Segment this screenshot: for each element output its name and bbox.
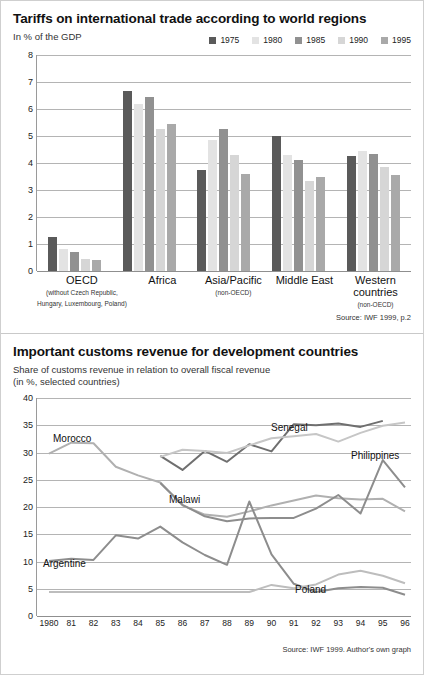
y-tick-label: 6 — [28, 104, 33, 114]
x-year-label: 93 — [334, 618, 343, 628]
x-category: Middle East — [269, 271, 340, 317]
y-tick-label: 7 — [28, 77, 33, 87]
bar-chart-legend: 19751980198519901995 — [209, 35, 411, 45]
y-tick-label: 0 — [28, 266, 33, 276]
bar-1985 — [219, 129, 228, 271]
line-chart-source: Source: IWF 1999. Author's own graph — [282, 645, 411, 654]
line-chart-panel: Important customs revenue for developmen… — [1, 334, 423, 675]
line-label-malawi: Malawi — [169, 494, 200, 505]
y-tick-label: 4 — [28, 158, 33, 168]
x-category: Asia/Pacific(non-OECD) — [198, 271, 269, 317]
bar-1995 — [391, 175, 400, 271]
x-year-label: 92 — [311, 618, 320, 628]
bar-group-asia-pacific — [187, 55, 262, 271]
legend-swatch-icon — [338, 37, 345, 44]
x-year-label: 89 — [245, 618, 254, 628]
y-tick-label: 20 — [23, 502, 33, 512]
legend-label: 1975 — [220, 35, 239, 45]
x-year-label: 84 — [133, 618, 142, 628]
x-category-label: Africa — [127, 274, 198, 286]
y-tick-label: 15 — [23, 529, 33, 539]
y-tick-label: 8 — [28, 50, 33, 60]
bar-1995 — [167, 124, 176, 271]
bar-group-oecd — [37, 55, 112, 271]
x-category: OECD(without Czech Republic,Hungary, Lux… — [37, 271, 127, 317]
bar-chart-title: Tariffs on international trade according… — [13, 11, 411, 26]
bar-1980 — [134, 104, 143, 271]
bar-chart-panel: Tariffs on international trade according… — [1, 1, 423, 334]
bar-1980 — [283, 155, 292, 271]
y-tick-label: 30 — [23, 448, 33, 458]
x-year-label: 88 — [222, 618, 231, 628]
line-chart-title: Important customs revenue for developmen… — [13, 344, 411, 359]
bar-1985 — [369, 154, 378, 271]
legend-label: 1980 — [263, 35, 282, 45]
x-year-label: 94 — [356, 618, 365, 628]
bar-1990 — [156, 129, 165, 271]
x-category-label: OECD — [37, 274, 127, 286]
x-year-label: 82 — [89, 618, 98, 628]
bar-x-axis-categories: OECD(without Czech Republic,Hungary, Lux… — [37, 271, 411, 317]
x-year-label: 87 — [200, 618, 209, 628]
bar-1985 — [294, 160, 303, 271]
bar-1995 — [92, 260, 101, 271]
x-year-label: 83 — [111, 618, 120, 628]
legend-label: 1990 — [349, 35, 368, 45]
x-year-label: 85 — [156, 618, 165, 628]
bar-1990 — [380, 167, 389, 271]
legend-item-1980: 1980 — [252, 35, 282, 45]
line-label-argentine: Argentine — [43, 558, 86, 569]
x-year-label: 1980 — [40, 618, 59, 628]
legend-item-1985: 1985 — [295, 35, 325, 45]
bar-group-western-countries — [336, 55, 411, 271]
line-chart-subtitle-2: (in %, selected countries) — [13, 376, 411, 388]
bar-1995 — [316, 177, 325, 272]
bar-1990 — [230, 155, 239, 271]
x-category-note: Hungary, Luxembourg, Poland) — [37, 299, 127, 308]
bar-1980 — [208, 140, 217, 271]
x-category: Western countries(non-OECD) — [340, 271, 411, 317]
x-year-label: 81 — [67, 618, 76, 628]
y-tick-label: 40 — [23, 393, 33, 403]
x-year-label: 91 — [289, 618, 298, 628]
bar-1975 — [272, 136, 281, 271]
line-chart-subtitle-1: Share of customs revenue in relation to … — [13, 364, 411, 376]
bar-chart-source: Source: IWF 1999, p.2 — [336, 313, 411, 322]
y-tick-label: 1 — [28, 239, 33, 249]
x-year-label: 96 — [400, 618, 409, 628]
bar-1985 — [70, 252, 79, 271]
bar-1975 — [48, 237, 57, 271]
legend-swatch-icon — [252, 37, 259, 44]
y-tick-label: 0 — [28, 611, 33, 621]
bar-plot-area: 012345678 — [13, 55, 411, 271]
bar-1975 — [347, 156, 356, 271]
line-label-senegal: Senegal — [271, 422, 308, 433]
y-tick-label: 10 — [23, 557, 33, 567]
bar-1980 — [358, 151, 367, 271]
bar-1975 — [123, 91, 132, 271]
line-label-morocco: Morocco — [53, 433, 91, 444]
bar-1975 — [197, 170, 206, 271]
line-series-argentine — [49, 502, 405, 595]
legend-item-1995: 1995 — [381, 35, 411, 45]
x-category: Africa — [127, 271, 198, 317]
chart-page: Tariffs on international trade according… — [0, 0, 424, 675]
x-year-label: 90 — [267, 618, 276, 628]
x-year-label: 86 — [178, 618, 187, 628]
x-year-label: 95 — [378, 618, 387, 628]
bar-y-axis-labels: 012345678 — [13, 55, 35, 271]
bar-1980 — [59, 249, 68, 271]
bar-series-area — [37, 55, 411, 271]
line-x-axis-years: 198081828384858687888990919293949596 — [37, 616, 411, 630]
legend-item-1990: 1990 — [338, 35, 368, 45]
bar-1985 — [145, 97, 154, 271]
bar-1990 — [305, 181, 314, 271]
y-tick-label: 5 — [28, 584, 33, 594]
x-category-note: (non-OECD) — [198, 288, 269, 297]
x-category-label: Asia/Pacific — [198, 274, 269, 286]
y-tick-label: 2 — [28, 212, 33, 222]
y-tick-label: 5 — [28, 131, 33, 141]
x-category-label: Western countries — [340, 274, 411, 298]
legend-label: 1995 — [392, 35, 411, 45]
legend-swatch-icon — [295, 37, 302, 44]
